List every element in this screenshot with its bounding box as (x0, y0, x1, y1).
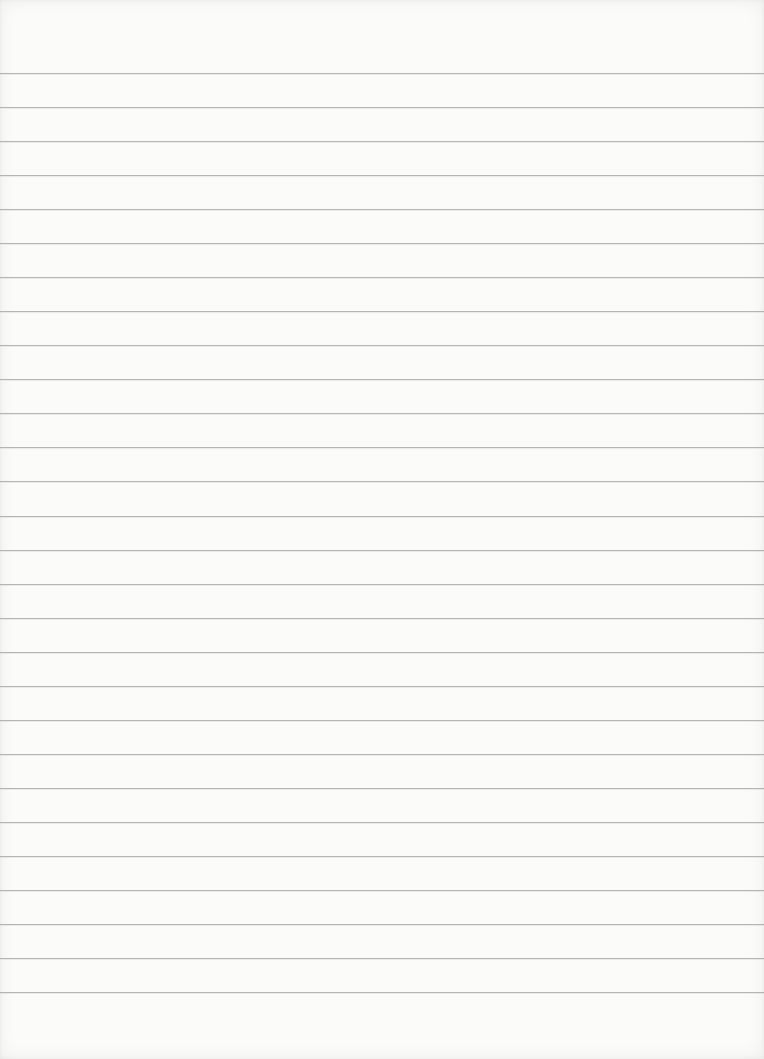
ruled-line (0, 788, 764, 789)
lined-paper-sheet (0, 0, 764, 1059)
ruled-line (0, 958, 764, 959)
ruled-line (0, 345, 764, 346)
ruled-line (0, 481, 764, 482)
ruled-line (0, 379, 764, 380)
ruled-line (0, 447, 764, 448)
ruled-line (0, 550, 764, 551)
ruled-line (0, 311, 764, 312)
ruled-line (0, 822, 764, 823)
ruled-line (0, 516, 764, 517)
ruled-line (0, 992, 764, 993)
ruled-line (0, 277, 764, 278)
ruled-line (0, 618, 764, 619)
ruled-line (0, 686, 764, 687)
ruled-line (0, 141, 764, 142)
ruled-line (0, 413, 764, 414)
ruled-line (0, 652, 764, 653)
ruled-line (0, 856, 764, 857)
ruled-line (0, 584, 764, 585)
ruled-line (0, 243, 764, 244)
ruled-line (0, 720, 764, 721)
ruled-line (0, 754, 764, 755)
ruled-line (0, 924, 764, 925)
ruled-line (0, 107, 764, 108)
ruled-line (0, 890, 764, 891)
ruled-line (0, 209, 764, 210)
ruled-line (0, 175, 764, 176)
ruled-line (0, 73, 764, 74)
